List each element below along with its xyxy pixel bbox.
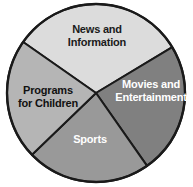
pie-chart-svg xyxy=(0,0,193,187)
pie-chart-figure: News and Information Movies and Entertai… xyxy=(0,0,193,187)
